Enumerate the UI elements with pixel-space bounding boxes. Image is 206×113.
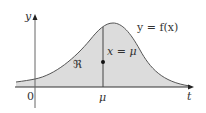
y-axis-label: y bbox=[24, 10, 32, 23]
centroid-point bbox=[101, 60, 105, 64]
y-axis-arrow-icon bbox=[33, 14, 38, 20]
origin-label: 0 bbox=[27, 90, 34, 103]
curve-label: y = f(x) bbox=[136, 21, 178, 34]
mu-tick-label: μ bbox=[99, 91, 106, 104]
area-under-curve-diagram: y t 0 μ y = f(x) x = μ ℜ bbox=[0, 0, 206, 113]
x-axis-arrow-icon bbox=[188, 85, 194, 90]
x-axis-label: t bbox=[187, 90, 192, 103]
region-label: ℜ bbox=[73, 58, 82, 71]
vertical-line-label: x = μ bbox=[107, 45, 137, 58]
